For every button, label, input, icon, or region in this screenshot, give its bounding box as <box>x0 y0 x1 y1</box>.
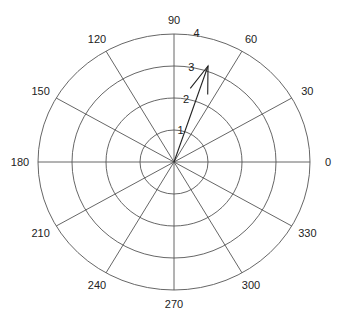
grid-spoke-330 <box>174 162 292 226</box>
angle-label-30: 30 <box>301 85 313 97</box>
angle-label-120: 120 <box>88 33 106 45</box>
arrow-shaft <box>174 66 208 162</box>
grid-spoke-120 <box>106 51 174 162</box>
angle-label-330: 330 <box>298 227 316 239</box>
grid-spoke-240 <box>106 162 174 273</box>
angle-label-0: 0 <box>325 156 331 168</box>
grid-spoke-150 <box>56 98 174 162</box>
radius-label-2: 2 <box>183 93 189 105</box>
radius-label-3: 3 <box>188 61 194 73</box>
radius-label-4: 4 <box>194 27 200 39</box>
angle-label-210: 210 <box>31 227 49 239</box>
grid-spoke-300 <box>174 162 242 273</box>
grid-spoke-210 <box>56 162 174 226</box>
angle-label-150: 150 <box>31 85 49 97</box>
angle-label-240: 240 <box>88 279 106 291</box>
angle-label-90: 90 <box>168 14 180 26</box>
angle-label-180: 180 <box>11 156 29 168</box>
polar-compass-chart: 0306090120150180210240270300330 1234 <box>0 0 339 321</box>
angle-label-300: 300 <box>242 279 260 291</box>
angle-label-60: 60 <box>245 33 257 45</box>
grid-spoke-30 <box>174 98 292 162</box>
radius-label-1: 1 <box>178 124 184 136</box>
angle-label-270: 270 <box>165 298 183 310</box>
compass-arrows <box>174 66 208 162</box>
